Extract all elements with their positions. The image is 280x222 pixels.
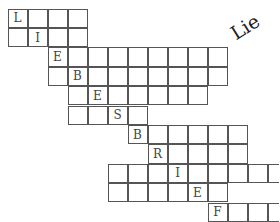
grid-cell[interactable] bbox=[168, 67, 188, 86]
grid-cell[interactable] bbox=[108, 67, 128, 86]
grid-cell[interactable] bbox=[168, 183, 188, 202]
grid-cell[interactable]: E bbox=[188, 183, 208, 202]
grid-cell[interactable] bbox=[108, 86, 128, 105]
grid-cell[interactable] bbox=[68, 47, 88, 66]
grid-cell[interactable] bbox=[128, 47, 148, 66]
grid-cell[interactable] bbox=[228, 203, 248, 222]
grid-cell[interactable] bbox=[68, 28, 88, 47]
grid-cell[interactable] bbox=[188, 144, 208, 163]
grid-cell[interactable] bbox=[108, 183, 128, 202]
grid-cell[interactable] bbox=[208, 67, 228, 86]
grid-cell[interactable] bbox=[188, 125, 208, 144]
grid-cell[interactable] bbox=[128, 164, 148, 183]
grid-cell[interactable] bbox=[188, 47, 208, 66]
grid-cell[interactable] bbox=[108, 164, 128, 183]
grid-cell[interactable]: R bbox=[148, 144, 168, 163]
grid-cell[interactable] bbox=[268, 203, 280, 222]
grid-cell[interactable]: I bbox=[28, 28, 48, 47]
grid-cell[interactable] bbox=[208, 47, 228, 66]
grid-cell[interactable]: E bbox=[48, 47, 68, 66]
grid-cell[interactable] bbox=[248, 164, 268, 183]
grid-cell[interactable] bbox=[208, 144, 228, 163]
grid-cell[interactable] bbox=[188, 67, 208, 86]
grid-cell[interactable] bbox=[148, 164, 168, 183]
grid-cell[interactable] bbox=[228, 125, 248, 144]
grid-cell[interactable] bbox=[168, 47, 188, 66]
grid-cell[interactable] bbox=[148, 47, 168, 66]
grid-cell[interactable] bbox=[88, 67, 108, 86]
grid-cell[interactable]: B bbox=[68, 67, 88, 86]
grid-cell[interactable] bbox=[148, 125, 168, 144]
grid-cell[interactable]: I bbox=[168, 164, 188, 183]
grid-cell[interactable] bbox=[168, 144, 188, 163]
grid-cell[interactable] bbox=[208, 164, 228, 183]
grid-cell[interactable] bbox=[88, 47, 108, 66]
grid-cell[interactable] bbox=[148, 86, 168, 105]
grid-cell[interactable] bbox=[188, 86, 208, 105]
grid-cell[interactable] bbox=[168, 125, 188, 144]
crossword-grid: LIEBESBRIEF bbox=[0, 0, 279, 222]
grid-cell[interactable]: F bbox=[208, 203, 228, 222]
grid-cell[interactable] bbox=[168, 86, 188, 105]
grid-cell[interactable] bbox=[148, 183, 168, 202]
grid-cell[interactable] bbox=[248, 203, 268, 222]
grid-cell[interactable]: E bbox=[88, 86, 108, 105]
grid-cell[interactable] bbox=[8, 28, 28, 47]
grid-cell[interactable] bbox=[268, 164, 280, 183]
grid-cell[interactable] bbox=[68, 106, 88, 125]
grid-cell[interactable] bbox=[48, 28, 68, 47]
grid-cell[interactable] bbox=[128, 183, 148, 202]
grid-cell[interactable] bbox=[88, 106, 108, 125]
grid-cell[interactable] bbox=[208, 183, 228, 202]
grid-cell[interactable] bbox=[188, 164, 208, 183]
grid-cell[interactable] bbox=[48, 9, 68, 28]
grid-cell[interactable] bbox=[68, 86, 88, 105]
grid-cell[interactable] bbox=[128, 67, 148, 86]
grid-cell[interactable]: L bbox=[8, 9, 28, 28]
grid-cell[interactable] bbox=[128, 106, 148, 125]
grid-cell[interactable] bbox=[208, 125, 228, 144]
grid-cell[interactable]: S bbox=[108, 106, 128, 125]
grid-cell[interactable] bbox=[128, 86, 148, 105]
grid-cell[interactable] bbox=[28, 9, 48, 28]
grid-cell[interactable] bbox=[228, 144, 248, 163]
grid-cell[interactable] bbox=[148, 67, 168, 86]
grid-cell[interactable] bbox=[48, 67, 68, 86]
grid-cell[interactable] bbox=[68, 9, 88, 28]
grid-cell[interactable]: B bbox=[128, 125, 148, 144]
grid-cell[interactable] bbox=[108, 47, 128, 66]
grid-cell[interactable] bbox=[228, 164, 248, 183]
